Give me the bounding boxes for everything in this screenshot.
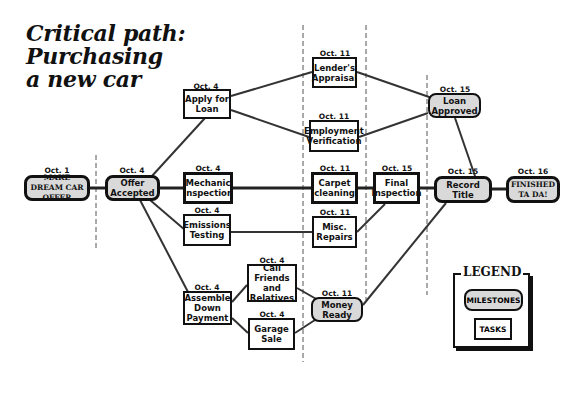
legend-tasks: TASKS xyxy=(474,318,512,340)
title-line: Critical path: xyxy=(26,22,185,45)
milestone-money-ready[interactable]: Money Ready xyxy=(311,297,363,322)
date-label: Oct. 4 xyxy=(102,166,162,175)
title-line: a new car xyxy=(26,68,185,91)
task-final-inspection[interactable]: Final Inspection xyxy=(373,172,420,204)
date-label: Oct. 15 xyxy=(433,167,493,176)
critical-path-diagram: Critical path: Purchasing a new car Oct.… xyxy=(0,0,577,397)
task-carpet-cleaning[interactable]: Carpet cleaning xyxy=(311,172,358,204)
legend-milestones: MILESTONES xyxy=(464,289,523,311)
milestone-record-title[interactable]: Record Title xyxy=(434,176,492,203)
task-misc-repairs[interactable]: Misc. Repairs xyxy=(312,216,357,248)
task-garage-sale[interactable]: Garage Sale xyxy=(248,318,295,350)
milestone-make-dream-car-offer[interactable]: MAKE DREAM CAR OFFER xyxy=(24,175,90,201)
milestone-loan-approved[interactable]: Loan Approved xyxy=(428,93,481,118)
task-apply-for-loan[interactable]: Apply for Loan xyxy=(183,89,231,119)
task-assemble-down-payment[interactable]: Assemble Down Payment xyxy=(183,291,232,325)
legend-title: LEGEND xyxy=(461,265,523,279)
task-call-friends-and-relatives[interactable]: Call Friends and Relatives xyxy=(247,264,297,302)
milestone-finished[interactable]: FINISHED TA DA! xyxy=(506,176,560,203)
task-lenders-appraisal[interactable]: Lender's Appraisal xyxy=(312,57,357,88)
date-label: Oct. 16 xyxy=(503,167,563,176)
task-mechanic-inspection[interactable]: Mechanic Inspection xyxy=(183,172,233,204)
title-line: Purchasing xyxy=(26,45,185,68)
milestone-offer-accepted[interactable]: Offer Accepted xyxy=(105,175,160,201)
task-employment-verification[interactable]: Employment Verification xyxy=(309,120,359,152)
task-emissions-testing[interactable]: Emissions Testing xyxy=(183,214,231,246)
diagram-title: Critical path: Purchasing a new car xyxy=(26,22,185,91)
